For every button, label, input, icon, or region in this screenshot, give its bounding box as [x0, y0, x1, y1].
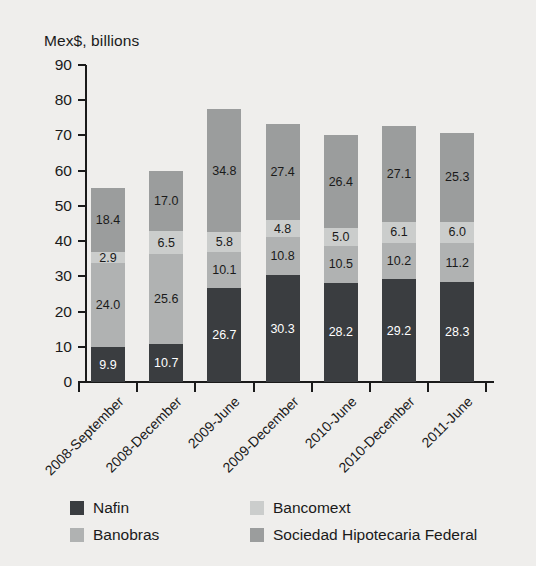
- legend-item[interactable]: Bancomext: [250, 500, 351, 516]
- legend-item[interactable]: Nafin: [70, 500, 129, 516]
- legend-label: Banobras: [93, 527, 159, 543]
- legend-swatch-icon: [250, 528, 264, 542]
- stacked-bar-chart: Mex$, billions 0102030405060708090 18.42…: [0, 0, 536, 566]
- legend-label: Bancomext: [273, 500, 351, 516]
- x-axis-category-labels: 2008-September2008-December2009-June2009…: [0, 0, 536, 566]
- legend-item[interactable]: Banobras: [70, 527, 159, 543]
- legend-item[interactable]: Sociedad Hipotecaria Federal: [250, 527, 477, 543]
- legend-swatch-icon: [70, 501, 84, 515]
- legend-swatch-icon: [70, 528, 84, 542]
- x-category-label: 2011-June: [419, 394, 475, 450]
- x-category-label: 2009-June: [186, 394, 243, 451]
- legend-label: Nafin: [93, 500, 129, 516]
- chart-legend: NafinBancomextBanobrasSociedad Hipotecar…: [70, 500, 490, 552]
- x-category-label: 2010-June: [302, 394, 359, 451]
- legend-label: Sociedad Hipotecaria Federal: [273, 527, 477, 543]
- legend-swatch-icon: [250, 501, 264, 515]
